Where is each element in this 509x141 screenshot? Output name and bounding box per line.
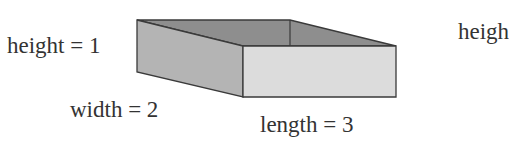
height-label: height = 1 bbox=[7, 34, 100, 57]
length-label: length = 3 bbox=[260, 113, 353, 136]
height-label-cut: heigh bbox=[458, 20, 509, 43]
box-front-face bbox=[243, 46, 396, 97]
width-label: width = 2 bbox=[70, 98, 158, 121]
